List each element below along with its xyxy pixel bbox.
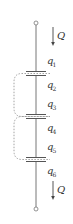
svg-text:5: 5 [53, 147, 57, 154]
svg-text:3: 3 [53, 104, 57, 111]
bottom-arrow-label: Q [57, 184, 65, 195]
svg-text:4: 4 [53, 128, 57, 135]
top-arrow-label: Q [57, 30, 65, 41]
svg-text:2: 2 [53, 85, 57, 92]
arrow-down-icon [51, 42, 55, 46]
charge-label-q1: q 1 [47, 55, 56, 68]
svg-text:6: 6 [53, 171, 57, 178]
arrow-down-icon [51, 196, 55, 200]
capacitor-chain-diagram: Q Q q 1 q 2 q 3 q 4 q 5 q 6 [0, 0, 73, 224]
charge-label-q4: q 4 [47, 122, 57, 135]
bottom-current-arrow: Q [51, 181, 65, 200]
charge-label-q2: q 2 [47, 79, 57, 92]
top-current-arrow: Q [51, 27, 65, 46]
dotted-region-upper [14, 74, 50, 117]
charge-label-q3: q 3 [47, 98, 57, 111]
charge-label-q6: q 6 [47, 165, 57, 178]
dotted-region-lower [14, 117, 50, 160]
top-terminal [34, 21, 38, 25]
charge-label-q5: q 5 [47, 141, 57, 154]
svg-text:1: 1 [53, 61, 57, 68]
bottom-terminal [34, 207, 38, 211]
